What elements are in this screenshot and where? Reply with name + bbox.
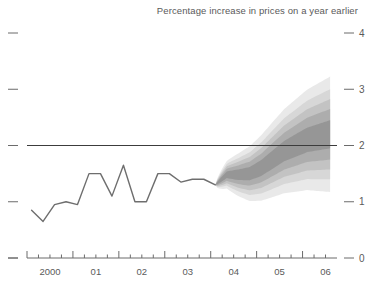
y-tick-label-3: 3 — [359, 84, 365, 95]
x-tick-label-05: 05 — [274, 266, 285, 277]
history-inflation-line — [32, 165, 216, 221]
x-tick-label-04: 04 — [228, 266, 239, 277]
chart-plot-area: 012342000010203040506 — [0, 0, 378, 291]
history-line-group — [32, 165, 216, 221]
x-tick-label-2000: 2000 — [39, 266, 60, 277]
x-tick-label-01: 01 — [91, 266, 102, 277]
fan-bands-group — [215, 77, 330, 201]
y-tick-label-4: 4 — [359, 28, 365, 39]
x-tick-label-06: 06 — [320, 266, 331, 277]
x-tick-label-03: 03 — [182, 266, 193, 277]
y-tick-label-1: 1 — [359, 196, 365, 207]
fan-chart: Percentage increase in prices on a year … — [0, 0, 378, 291]
y-tick-label-0: 0 — [359, 253, 365, 264]
x-tick-label-02: 02 — [137, 266, 148, 277]
y-tick-label-2: 2 — [359, 140, 365, 151]
